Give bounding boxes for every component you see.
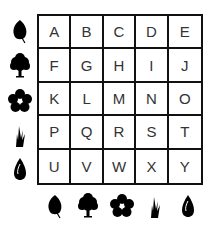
grid-cell: L	[71, 83, 103, 116]
grid-cell: P	[39, 116, 71, 149]
flower-icon	[8, 88, 32, 114]
grid-cell: N	[136, 83, 168, 116]
grid-cell: Q	[71, 116, 103, 149]
flower-icon	[110, 193, 134, 219]
tree-icon	[76, 193, 100, 219]
leaf-icon	[8, 18, 32, 44]
grid-cell: S	[136, 116, 168, 149]
grid-cell: G	[71, 49, 103, 82]
grid-cell: Y	[169, 150, 201, 183]
grid-cell: B	[71, 16, 103, 49]
grass-icon	[8, 122, 32, 148]
grid-cell: U	[39, 150, 71, 183]
seed-icon	[176, 193, 200, 219]
grid-cell: H	[104, 49, 136, 82]
grid-cell: T	[169, 116, 201, 149]
grid-cell: A	[39, 16, 71, 49]
tree-icon	[8, 53, 32, 79]
grid-cell: R	[104, 116, 136, 149]
grid-cell: F	[39, 49, 71, 82]
grass-icon	[143, 193, 167, 219]
grid-cell: I	[136, 49, 168, 82]
letter-grid: A B C D E F G H I J K L M N O P Q R S T …	[37, 14, 203, 185]
grid-cell: K	[39, 83, 71, 116]
grid-cell: W	[104, 150, 136, 183]
seed-icon	[8, 156, 32, 182]
grid-cell: V	[71, 150, 103, 183]
leaf-icon	[43, 193, 67, 219]
grid-cell: C	[104, 16, 136, 49]
grid-cell: O	[169, 83, 201, 116]
grid-cell: X	[136, 150, 168, 183]
grid-cell: D	[136, 16, 168, 49]
grid-cell: E	[169, 16, 201, 49]
grid-cell: M	[104, 83, 136, 116]
grid-cell: J	[169, 49, 201, 82]
